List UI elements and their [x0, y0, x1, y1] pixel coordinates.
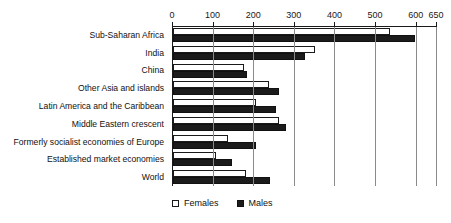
category-label: World — [142, 172, 164, 182]
x-axis-tick-label: 400 — [327, 9, 342, 22]
bar-series-container — [172, 26, 436, 186]
legend-item-males[interactable]: Males — [237, 198, 273, 208]
bar-females-6 — [173, 135, 228, 142]
bar-females-0 — [173, 28, 390, 35]
category-label: Formerly socialist economies of Europe — [14, 137, 164, 147]
category-label: India — [145, 48, 164, 58]
gridline — [253, 26, 254, 186]
gridline — [294, 26, 295, 186]
x-axis-tick-mark — [416, 22, 417, 27]
category-label: Sub-Saharan Africa — [89, 30, 164, 40]
legend-label: Males — [249, 198, 273, 208]
x-axis-tick-label: 500 — [368, 9, 383, 22]
bar-males-4 — [173, 106, 276, 113]
category-label: Other Asia and islands — [78, 83, 164, 93]
gridline — [334, 26, 335, 186]
bar-females-5 — [173, 117, 279, 124]
x-axis-tick-label: 200 — [246, 9, 261, 22]
filled-square-swatch — [237, 200, 244, 207]
x-axis-tick-labels: 0100200300400500600650 — [0, 9, 451, 22]
bar-males-2 — [173, 71, 247, 78]
legend-label: Females — [184, 198, 219, 208]
bar-females-8 — [173, 170, 246, 177]
bar-males-5 — [173, 124, 286, 131]
x-axis-tick-label: 650 — [428, 9, 443, 22]
bar-females-4 — [173, 99, 256, 106]
category-label: Latin America and the Caribbean — [39, 101, 164, 111]
category-label: China — [142, 65, 164, 75]
x-axis-tick-mark — [375, 22, 376, 27]
bar-males-3 — [173, 88, 279, 95]
gridline — [416, 26, 417, 186]
x-axis-tick-mark — [436, 22, 437, 27]
category-axis-labels: Sub-Saharan AfricaIndiaChinaOther Asia a… — [0, 26, 168, 186]
bar-males-6 — [173, 142, 256, 149]
bar-males-7 — [173, 159, 232, 166]
gridline — [436, 26, 437, 186]
open-square-swatch — [172, 200, 179, 207]
plot-area — [172, 26, 436, 186]
x-axis-tick-mark — [334, 22, 335, 27]
x-axis-tick-label: 0 — [169, 9, 174, 22]
category-label: Middle Eastern crescent — [72, 119, 164, 129]
bar-females-2 — [173, 64, 244, 71]
legend-item-females[interactable]: Females — [172, 198, 219, 208]
bar-males-8 — [173, 177, 270, 184]
chart-legend: FemalesMales — [172, 196, 291, 210]
bar-females-7 — [173, 152, 216, 159]
x-axis-tick-mark — [253, 22, 254, 27]
bar-chart: 0100200300400500600650 Sub-Saharan Afric… — [0, 0, 451, 223]
bar-males-1 — [173, 53, 305, 60]
category-label: Established market economies — [47, 154, 164, 164]
bar-females-3 — [173, 81, 269, 88]
x-axis-tick-label: 600 — [408, 9, 423, 22]
x-axis-tick-mark — [172, 22, 173, 27]
x-axis-tick-mark — [213, 22, 214, 27]
gridline — [375, 26, 376, 186]
x-axis-tick-label: 100 — [205, 9, 220, 22]
x-axis-tick-label: 300 — [286, 9, 301, 22]
gridline — [213, 26, 214, 186]
x-axis-tick-mark — [294, 22, 295, 27]
